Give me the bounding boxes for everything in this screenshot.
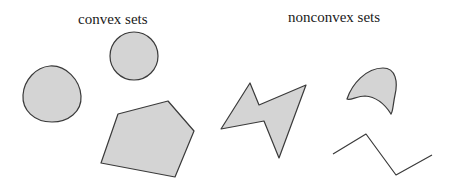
nonconvex-lightning-bolt (221, 83, 306, 158)
convex-pentagon (101, 101, 194, 177)
convex-circle (110, 32, 158, 80)
nonconvex-boomerang (347, 68, 396, 114)
nonconvex-zigzag-line (333, 134, 432, 175)
convex-rounded-blob (23, 66, 81, 122)
sets-diagram (0, 0, 453, 186)
